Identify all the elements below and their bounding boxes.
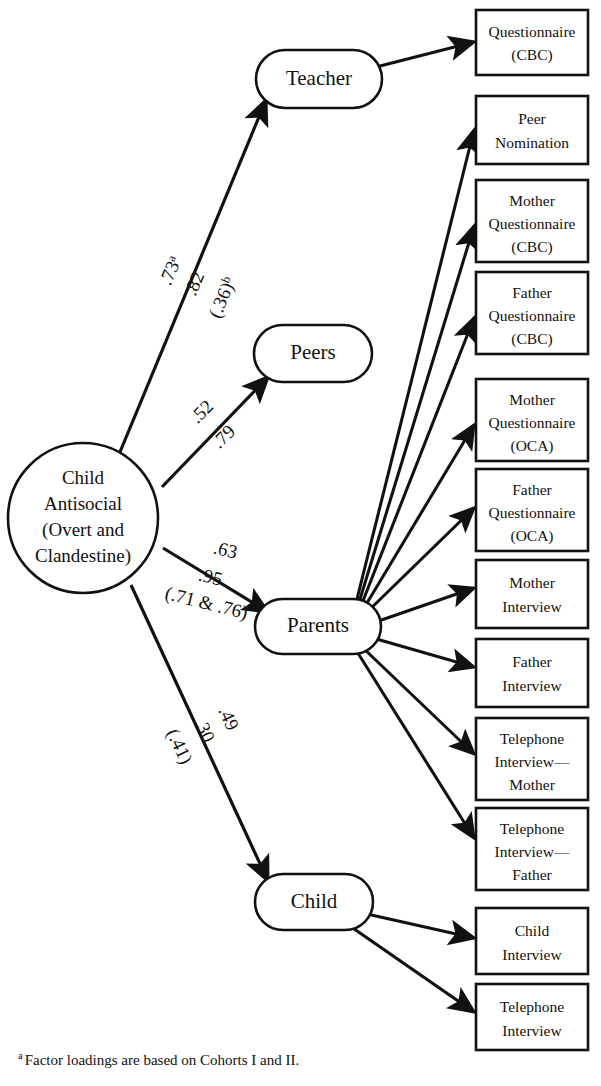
- indicator-12-line-2: Interview: [502, 1022, 562, 1039]
- coef-parents-3: (.71 & .76): [163, 582, 250, 624]
- indicator-7-line-2: Interview: [502, 598, 562, 615]
- latent-root-line-4: Clandestine): [35, 545, 131, 567]
- indicator-box-7[interactable]: Mother Interview: [476, 560, 588, 628]
- indicator-3-line-1: Mother: [509, 192, 555, 209]
- indicator-8-line-2: Interview: [502, 677, 562, 694]
- indicator-6-line-2: Questionnaire: [489, 504, 576, 521]
- indicator-box-3[interactable]: Mother Questionnaire (CBC): [476, 180, 588, 262]
- latent-peers[interactable]: Peers: [254, 325, 372, 382]
- indicator-box-12[interactable]: Telephone Interview: [476, 984, 588, 1050]
- latent-child[interactable]: Child: [255, 874, 373, 930]
- indicator-9-line-2: Interview—: [495, 753, 570, 770]
- edge-teacher-ind1: [380, 42, 474, 66]
- indicator-5-line-2: Questionnaire: [489, 414, 576, 431]
- indicator-4-line-3: (CBC): [511, 330, 552, 348]
- coef-parents-2: .95: [197, 564, 225, 590]
- coef-parents-1: .63: [212, 537, 240, 563]
- indicator-6-line-3: (OCA): [510, 527, 553, 545]
- edges-parents: [355, 130, 474, 838]
- indicator-boxes: Questionnaire (CBC) Peer Nomination Moth…: [476, 10, 588, 1050]
- indicator-2-line-2: Nomination: [495, 134, 569, 151]
- indicator-box-5[interactable]: Mother Questionnaire (OCA): [476, 379, 588, 461]
- edge-child-ind11: [358, 912, 474, 938]
- edges-teacher: [380, 42, 474, 66]
- indicator-1-line-1: Questionnaire: [489, 23, 576, 40]
- coefficients-root-peers: .52 .79: [186, 396, 240, 453]
- coef-peers-2: .79: [208, 421, 240, 453]
- indicator-10-line-2: Interview—: [495, 843, 570, 860]
- footnote-text: Factor loadings are based on Cohorts I a…: [25, 1052, 300, 1068]
- coef-child-3: (.41): [162, 725, 197, 767]
- edge-parents-ind10: [356, 650, 474, 838]
- indicator-10-line-3: Father: [512, 866, 552, 883]
- indicator-11-line-1: Child: [515, 922, 550, 939]
- latent-teacher[interactable]: Teacher: [256, 50, 382, 108]
- edge-parents-ind8: [366, 636, 474, 667]
- latent-child-label: Child: [291, 889, 338, 913]
- path-diagram: Child Antisocial (Overt and Clandestine)…: [0, 0, 601, 1086]
- indicator-7-line-1: Mother: [509, 574, 555, 591]
- coef-teacher-3: (.36)b: [204, 274, 241, 322]
- indicator-6-line-1: Father: [512, 481, 552, 498]
- latent-teacher-label: Teacher: [286, 66, 352, 90]
- latent-root-line-2: Antisocial: [44, 493, 122, 514]
- indicator-box-8[interactable]: Father Interview: [476, 639, 588, 707]
- indicator-box-4[interactable]: Father Questionnaire (CBC): [476, 272, 588, 354]
- indicator-box-11[interactable]: Child Interview: [476, 908, 588, 974]
- indicator-4-line-1: Father: [512, 284, 552, 301]
- indicator-8-line-1: Father: [512, 653, 552, 670]
- latent-parents[interactable]: Parents: [255, 599, 381, 654]
- indicator-3-line-2: Questionnaire: [489, 215, 576, 232]
- indicator-4-line-2: Questionnaire: [489, 307, 576, 324]
- footnote-marker: a: [18, 1050, 23, 1061]
- indicator-11-line-2: Interview: [502, 946, 562, 963]
- latent-root-line-3: (Overt and: [42, 519, 124, 541]
- indicator-box-10[interactable]: Telephone Interview— Father: [476, 808, 588, 890]
- edges-child: [347, 912, 474, 1012]
- coef-peers-1: .52: [186, 396, 218, 428]
- edge-parents-ind7: [367, 588, 474, 625]
- edge-parents-ind2: [355, 130, 474, 607]
- edge-parents-ind3: [357, 226, 474, 609]
- indicator-box-9[interactable]: Telephone Interview— Mother: [476, 718, 588, 800]
- indicator-12-line-1: Telephone: [500, 998, 564, 1015]
- latent-peers-label: Peers: [290, 340, 336, 364]
- indicator-9-line-1: Telephone: [500, 730, 564, 747]
- indicator-3-line-3: (CBC): [511, 238, 552, 256]
- indicator-9-line-3: Mother: [509, 776, 555, 793]
- indicator-2-line-1: Peer: [518, 110, 546, 127]
- indicator-5-line-3: (OCA): [510, 437, 553, 455]
- coef-child-1: .49: [214, 703, 243, 733]
- latent-child-antisocial[interactable]: Child Antisocial (Overt and Clandestine): [8, 443, 158, 593]
- indicator-10-line-1: Telephone: [500, 820, 564, 837]
- indicator-box-6[interactable]: Father Questionnaire (OCA): [476, 469, 588, 551]
- indicator-5-line-1: Mother: [509, 391, 555, 408]
- indicator-1-line-2: (CBC): [511, 46, 552, 64]
- coefficients-root-parents: .63 .95 (.71 & .76): [163, 537, 250, 624]
- indicator-box-2[interactable]: Peer Nomination: [476, 96, 588, 164]
- edge-child-ind12: [347, 924, 474, 1012]
- latent-parents-label: Parents: [287, 613, 349, 637]
- coefficients-root-child: .49 .30 (.41): [162, 703, 244, 768]
- latent-root-line-1: Child: [62, 467, 105, 488]
- coef-teacher-1: .73a: [155, 252, 186, 288]
- figure-footnote: aFactor loadings are based on Cohorts I …: [18, 1050, 578, 1069]
- indicator-box-1[interactable]: Questionnaire (CBC): [476, 10, 588, 75]
